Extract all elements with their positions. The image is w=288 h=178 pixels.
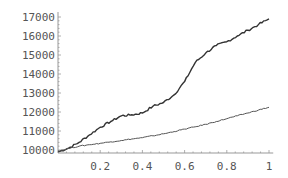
x-tick-label: 0.4 xyxy=(132,160,152,173)
x-tick-label: 0.8 xyxy=(217,160,237,173)
x-tick-label: 0.2 xyxy=(90,160,110,173)
y-tick-label: 16000 xyxy=(22,30,55,43)
y-tick-label: 15000 xyxy=(22,49,55,62)
x-tick-label: 1 xyxy=(266,160,273,173)
series-lines xyxy=(58,19,269,152)
y-tick-label: 14000 xyxy=(22,68,55,81)
y-tick-label: 12000 xyxy=(22,106,55,119)
tick-labels: 1000011000120001300014000150001600017000… xyxy=(22,11,272,173)
series-line-lower xyxy=(58,107,269,151)
y-tick-label: 13000 xyxy=(22,87,55,100)
series-line-upper xyxy=(58,19,269,152)
y-tick-label: 11000 xyxy=(22,125,55,138)
x-tick-label: 0.6 xyxy=(175,160,195,173)
line-chart: 1000011000120001300014000150001600017000… xyxy=(0,0,288,178)
y-tick-label: 10000 xyxy=(22,144,55,157)
y-tick-label: 17000 xyxy=(22,11,55,24)
